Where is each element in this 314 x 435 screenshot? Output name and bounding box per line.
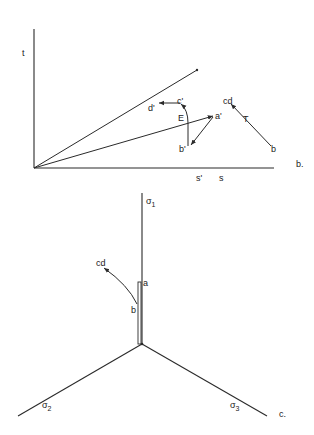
failure-envelope-line	[34, 70, 197, 168]
t-axis-label: t	[22, 48, 25, 58]
s-prime-label: s'	[196, 173, 203, 183]
a-prime-label: a'	[215, 111, 222, 121]
d-prime-label: d'	[148, 103, 155, 113]
effective-path-label: E	[178, 113, 184, 123]
stress-path-diagram: t s' s b. d' c' E a' b' cd T b σ1 σ2 σ3 …	[0, 0, 314, 435]
failure-line-end-dot	[196, 69, 198, 71]
b-to-cd-total-path-arrow	[231, 104, 271, 146]
sigma2-label: σ2	[42, 400, 52, 412]
b-label-c: b	[131, 305, 136, 315]
b-label: b	[271, 144, 276, 154]
cd-label-c: cd	[96, 258, 106, 268]
a-label: a	[143, 278, 148, 288]
sigma1-label: σ1	[146, 196, 156, 208]
panel-b-tag: b.	[296, 159, 304, 169]
origin-to-a-prime-arrow	[34, 116, 213, 168]
s-label: s	[219, 173, 224, 183]
panel-c: σ1 σ2 σ3 c. cd a b	[18, 193, 286, 419]
panel-b: t s' s b. d' c' E a' b' cd T b	[22, 29, 304, 183]
sigma2-axis	[18, 344, 142, 416]
cd-label: cd	[223, 96, 233, 106]
b-to-cd-curve-arrow	[104, 268, 137, 304]
panel-c-tag: c.	[279, 409, 286, 419]
a-stress-bar	[138, 282, 141, 344]
total-path-label: T	[243, 114, 249, 124]
sigma3-axis	[142, 344, 267, 416]
sigma3-label: σ3	[230, 400, 240, 412]
c-prime-label: c'	[177, 96, 184, 106]
b-prime-label: b'	[179, 144, 186, 154]
